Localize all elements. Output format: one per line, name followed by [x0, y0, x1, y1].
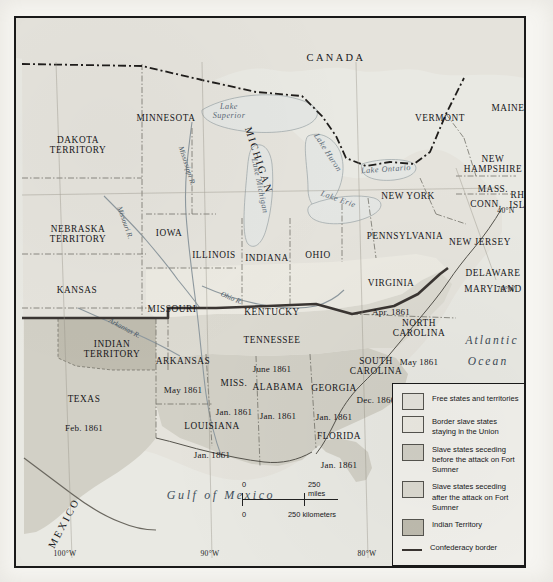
- state-label-missouri: MISSOURI: [148, 284, 197, 314]
- legend-swatch-seceded-before: [402, 444, 424, 461]
- legend-item-seceded-before: Slave states seceding before the attack …: [402, 444, 520, 476]
- state-label-nebraska-territory: NEBRASKA TERRITORY: [50, 204, 106, 244]
- state-label-indian-territory: INDIAN TERRITORY: [84, 319, 140, 359]
- coordinate-label-80w: 80°W: [358, 550, 377, 558]
- map-legend: Free states and territories Border slave…: [392, 383, 526, 566]
- state-name: MAINE: [491, 103, 524, 113]
- legend-swatch-free-states: [402, 393, 424, 410]
- state-name: INDIAN TERRITORY: [84, 339, 140, 359]
- map-page: CANADA MEXICO Atlantic Ocean Gulf of Mex…: [0, 0, 553, 582]
- state-label-florida: FLORIDA Jan. 1861: [317, 411, 361, 471]
- scale-bar-graphic: [242, 491, 338, 507]
- scale-km-end: 250 kilometers: [288, 510, 336, 519]
- state-name: NEW JERSEY: [449, 237, 511, 247]
- ocean-label-ocean: Ocean: [468, 355, 509, 367]
- legend-item-free-states: Free states and territories: [402, 393, 520, 410]
- scale-tick-end: [304, 493, 305, 506]
- legend-label: Slave states seceding after the attack o…: [432, 481, 520, 513]
- state-name: PENNSYLVANIA: [367, 231, 443, 241]
- state-label-arkansas: ARKANSAS May 1861: [156, 336, 211, 396]
- state-name: VIRGINIA: [368, 278, 415, 288]
- state-date: Feb. 1861: [65, 424, 103, 434]
- state-name: ARKANSAS: [156, 356, 211, 366]
- state-label-pennsylvania: PENNSYLVANIA: [367, 211, 443, 241]
- legend-line-confederacy-border: [402, 542, 422, 557]
- ocean-label-atlantic: Atlantic: [465, 334, 518, 346]
- state-date: May 1861: [156, 386, 211, 396]
- state-name: IOWA: [156, 228, 182, 238]
- state-label-new-jersey: NEW JERSEY: [449, 217, 511, 247]
- state-name: ILLINOIS: [192, 250, 236, 260]
- state-name: TENNESSEE: [243, 335, 300, 345]
- state-date: Jan. 1861: [253, 412, 304, 422]
- state-name: NEBRASKA TERRITORY: [50, 224, 106, 244]
- legend-item-border-slave-states: Border slave states staying in the Union: [402, 416, 520, 438]
- state-label-illinois: ILLINOIS: [192, 230, 236, 260]
- scale-miles-start: 0: [242, 480, 246, 489]
- state-label-minnesota: MINNESOTA: [137, 93, 196, 143]
- state-date: Jan. 1861: [184, 451, 240, 461]
- legend-label: Slave states seceding before the attack …: [432, 444, 520, 476]
- state-label-ohio: OHIO: [305, 230, 330, 260]
- state-label-kansas: KANSAS: [57, 265, 98, 295]
- state-label-iowa: IOWA: [156, 208, 182, 238]
- state-name: DAKOTA TERRITORY: [50, 135, 106, 155]
- state-label-new-york: NEW YORK: [381, 171, 435, 201]
- coordinate-label-40n: 40°N: [497, 207, 514, 215]
- state-name: OHIO: [305, 250, 330, 260]
- state-label-alabama: ALABAMA Jan. 1861: [253, 362, 304, 422]
- lake-superior-label: Lake Superior: [213, 103, 246, 121]
- legend-label: Indian Territory: [432, 519, 482, 530]
- legend-swatch-border-slave-states: [402, 416, 424, 433]
- state-label-maine: MAINE: [491, 83, 524, 113]
- state-name: SOUTH CAROLINA: [350, 356, 402, 376]
- state-name: MINNESOTA: [137, 113, 196, 123]
- map-frame: CANADA MEXICO Atlantic Ocean Gulf of Mex…: [14, 16, 526, 568]
- scale-km-start: 0: [242, 510, 246, 519]
- state-name: NEW YORK: [381, 191, 435, 201]
- scale-bar: 0 250 miles 0 250 kilometers: [242, 480, 338, 507]
- state-label-kentucky: KENTUCKY: [244, 287, 300, 317]
- state-label-dakota-territory: DAKOTA TERRITORY: [50, 115, 106, 175]
- state-label-vermont: VERMONT: [415, 93, 465, 123]
- state-name: LOUISIANA: [184, 421, 240, 431]
- state-name: FLORIDA: [317, 431, 361, 441]
- state-name: ALABAMA: [253, 382, 304, 392]
- state-name: KANSAS: [57, 285, 98, 295]
- legend-item-indian-territory: Indian Territory: [402, 519, 520, 536]
- legend-swatch-indian-territory: [402, 519, 424, 536]
- state-label-indiana: INDIANA: [245, 233, 289, 263]
- state-label-rhode-island: RHODE ISLAND: [509, 170, 526, 210]
- state-label-texas: TEXAS Feb. 1861: [65, 374, 103, 434]
- state-name: GEORGIA: [311, 383, 357, 393]
- coordinate-label-70w: 70°W: [497, 286, 516, 294]
- legend-item-confederacy-border: Confederacy border: [402, 542, 520, 557]
- scale-axis-line: [242, 499, 338, 500]
- state-name: VERMONT: [415, 113, 465, 123]
- country-label-canada: CANADA: [307, 52, 366, 63]
- coordinate-label-100w: 100°W: [53, 550, 76, 558]
- coordinate-label-90w: 90°W: [201, 550, 220, 558]
- state-name: MISS.: [216, 378, 252, 388]
- state-label-connecticut: CONN.: [470, 179, 501, 209]
- scale-tick-start: [242, 493, 243, 506]
- legend-item-seceded-after: Slave states seceding after the attack o…: [402, 481, 520, 513]
- legend-label: Free states and territories: [432, 393, 519, 404]
- legend-label: Border slave states staying in the Union: [432, 416, 520, 438]
- state-name: TEXAS: [65, 394, 103, 404]
- legend-swatch-seceded-after: [402, 481, 424, 498]
- legend-label: Confederacy border: [430, 542, 497, 553]
- state-name: MISSOURI: [148, 304, 197, 314]
- state-label-louisiana: LOUISIANA Jan. 1861: [184, 401, 240, 461]
- state-date: Jan. 1861: [317, 461, 361, 471]
- state-name: INDIANA: [245, 253, 289, 263]
